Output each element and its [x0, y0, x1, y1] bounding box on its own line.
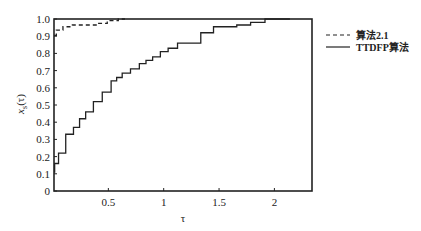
x-tick-label: 0.5 [101, 196, 115, 208]
y-tick-label: 1.0 [36, 13, 50, 25]
y-tick-label: 0.3 [36, 133, 50, 145]
legend-label-ttdfp: TTDFP算法 [356, 41, 409, 53]
series-line-ttdfp [54, 19, 290, 172]
y-tick-label: 0.2 [36, 151, 50, 163]
legend-label-algorithm-2-1: 算法2.1 [355, 29, 389, 41]
svg-text:xs(τ): xs(τ) [14, 94, 29, 115]
y-tick-label: 0.6 [36, 82, 50, 94]
y-tick-label: 0.1 [36, 168, 50, 180]
plot-frame [54, 19, 312, 191]
series-line-algorithm-2-1 [54, 19, 125, 35]
y-axis-label-tail: (τ) [14, 94, 27, 106]
x-tick-label: 2 [272, 196, 278, 208]
x-axis-label: τ [181, 212, 186, 224]
chart: 00.10.20.30.40.50.60.70.80.91.0 0.511.52… [0, 0, 421, 231]
series-layer [54, 19, 290, 172]
legend: 算法2.1 TTDFP算法 [326, 29, 409, 53]
y-axis-label: xs(τ) [14, 94, 29, 115]
x-tick-label: 1.5 [212, 196, 226, 208]
x-tick-label: 1 [161, 196, 167, 208]
y-tick-label: 0.8 [36, 47, 50, 59]
plot-border [54, 19, 312, 191]
y-tick-label: 0.9 [36, 30, 50, 42]
y-tick-label: 0.7 [36, 65, 50, 77]
y-tick-label: 0.5 [36, 99, 50, 111]
y-tick-label: 0.4 [36, 116, 50, 128]
y-tick-label: 0 [45, 185, 51, 197]
